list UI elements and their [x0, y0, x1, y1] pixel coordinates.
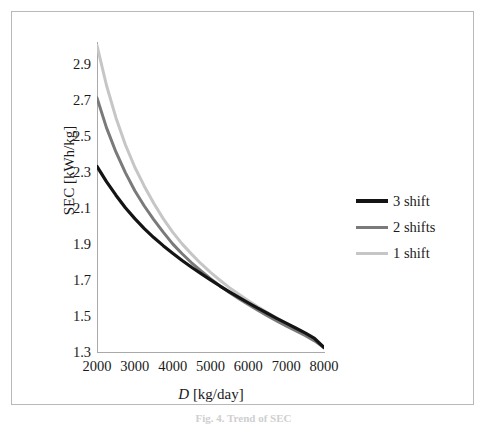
figure-frame: 1.31.51.71.92.12.32.52.72.9 200030004000… — [11, 11, 474, 405]
x-axis-units: [kg/day] — [193, 386, 244, 402]
figure-page: 1.31.51.71.92.12.32.52.72.9 200030004000… — [0, 0, 487, 427]
x-tick-label: 7000 — [272, 358, 301, 374]
plot-area — [97, 42, 324, 352]
series-line — [97, 98, 324, 348]
series-curves — [97, 42, 324, 352]
legend-swatch — [356, 226, 388, 229]
legend-label: 2 shifts — [393, 220, 435, 235]
y-tick-label: 2.9 — [51, 56, 91, 71]
legend-swatch — [356, 252, 388, 255]
x-tick-label: 8000 — [310, 358, 339, 374]
legend-label: 1 shift — [393, 246, 430, 261]
y-tick-label: 1.7 — [51, 273, 91, 288]
series-line — [97, 166, 324, 347]
x-tick-label: 4000 — [158, 358, 187, 374]
y-tick-label: 1.5 — [51, 309, 91, 324]
y-tick-label: 1.9 — [51, 237, 91, 252]
series-line — [97, 46, 324, 348]
x-tick-label: 3000 — [120, 358, 149, 374]
legend-item: 1 shift — [356, 244, 468, 262]
y-axis-label: SEC [kWh/kg] — [61, 106, 78, 236]
x-axis-tick-labels: 2000300040005000600070008000 — [97, 358, 325, 378]
legend: 3 shift2 shifts1 shift — [356, 192, 468, 270]
x-tick-label: 2000 — [83, 358, 112, 374]
legend-swatch — [356, 199, 388, 203]
x-axis-line — [97, 352, 325, 353]
legend-item: 3 shift — [356, 192, 468, 210]
x-tick-label: 5000 — [196, 358, 225, 374]
x-axis-label: D [kg/day] — [97, 386, 325, 403]
x-axis-symbol: D — [178, 386, 189, 402]
legend-label: 3 shift — [393, 194, 430, 209]
x-tick-label: 6000 — [234, 358, 263, 374]
figure-caption: Fig. 4. Trend of SEC — [0, 412, 487, 427]
legend-item: 2 shifts — [356, 218, 468, 236]
